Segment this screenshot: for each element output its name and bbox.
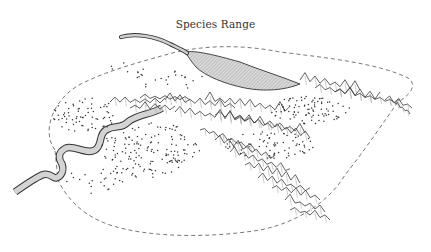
population-dot xyxy=(166,149,168,151)
population-dot xyxy=(267,142,269,144)
population-dot xyxy=(114,178,116,180)
population-dot xyxy=(292,97,294,99)
population-dot xyxy=(78,108,80,110)
population-dot xyxy=(324,113,326,115)
population-dot xyxy=(241,149,243,151)
population-dot xyxy=(117,153,119,155)
population-dot xyxy=(137,72,139,74)
population-dot xyxy=(288,155,290,157)
population-dot xyxy=(138,155,140,157)
population-dot xyxy=(329,101,331,103)
population-dot xyxy=(294,134,296,136)
population-dot xyxy=(178,167,180,169)
mountain-shading xyxy=(296,190,298,198)
population-dot xyxy=(157,126,159,128)
population-dot xyxy=(184,149,186,151)
population-dot xyxy=(116,172,118,174)
population-dot xyxy=(135,157,137,159)
population-dot xyxy=(326,115,328,117)
population-dot xyxy=(308,138,310,140)
population-dot xyxy=(151,169,153,171)
population-dot xyxy=(74,130,76,132)
population-dot xyxy=(312,99,314,101)
population-dot xyxy=(142,69,144,71)
population-dot xyxy=(150,169,152,171)
population-dot xyxy=(157,150,159,152)
population-dot xyxy=(132,167,134,169)
mountain-shading xyxy=(286,175,288,183)
population-dot xyxy=(184,153,186,155)
population-dot xyxy=(227,148,229,150)
population-dot xyxy=(192,156,194,158)
population-dot xyxy=(167,154,169,156)
population-dot xyxy=(127,71,129,73)
mountain-shading xyxy=(315,213,317,220)
population-dot xyxy=(72,119,74,121)
mountain-shading xyxy=(306,192,308,200)
population-dot xyxy=(288,147,290,149)
population-dot xyxy=(104,104,106,106)
population-dot xyxy=(111,137,113,139)
population-dot xyxy=(304,152,306,154)
population-dot xyxy=(345,112,347,114)
population-dot xyxy=(85,115,87,117)
population-dot xyxy=(54,109,56,111)
population-dot xyxy=(135,163,137,165)
mountain-shading xyxy=(250,102,252,111)
population-dot xyxy=(270,156,272,158)
population-dot xyxy=(267,134,269,136)
population-dot xyxy=(312,114,314,116)
population-dot xyxy=(328,114,330,116)
population-dot xyxy=(128,158,130,160)
population-dot xyxy=(183,149,185,151)
population-dot xyxy=(91,180,93,182)
population-dot xyxy=(106,126,108,128)
mountain-shading xyxy=(272,178,274,186)
population-dot xyxy=(298,135,300,137)
population-dot xyxy=(269,155,271,157)
mountain-shading xyxy=(220,138,222,146)
mountain-shading xyxy=(277,125,279,133)
population-dot xyxy=(174,71,176,73)
population-dot xyxy=(284,99,286,101)
population-dot xyxy=(108,103,110,105)
population-dot xyxy=(146,150,148,152)
population-dot xyxy=(192,80,194,82)
population-dot xyxy=(151,136,153,138)
population-dot xyxy=(165,173,167,175)
population-dot xyxy=(150,163,152,165)
population-dot xyxy=(64,116,66,118)
population-dot xyxy=(289,98,291,100)
population-dot xyxy=(180,138,182,140)
mountain-shading xyxy=(165,106,167,114)
population-dot xyxy=(79,100,81,102)
population-dot xyxy=(289,105,291,107)
population-dot xyxy=(135,176,137,178)
mountain-shading xyxy=(315,78,317,87)
mountain-shading xyxy=(320,207,322,215)
population-dot xyxy=(76,121,78,123)
population-dot xyxy=(296,143,298,145)
population-dot xyxy=(283,133,285,135)
population-dot xyxy=(229,141,231,143)
population-dot xyxy=(174,150,176,152)
population-dot xyxy=(128,136,130,138)
population-dot xyxy=(87,108,89,110)
population-dot xyxy=(277,142,279,144)
population-dot xyxy=(168,76,170,78)
population-dot xyxy=(64,112,66,114)
population-dot xyxy=(171,136,173,138)
population-dot xyxy=(305,115,307,117)
mountain-shading xyxy=(180,108,182,117)
population-dot xyxy=(185,76,187,78)
population-dot xyxy=(115,168,117,170)
population-dot xyxy=(184,136,186,138)
population-dot xyxy=(107,140,109,142)
population-dot xyxy=(90,193,92,195)
population-dot xyxy=(264,140,266,142)
population-dot xyxy=(293,114,295,116)
population-dot xyxy=(119,180,121,182)
population-dot xyxy=(288,152,290,154)
population-dot xyxy=(124,144,126,146)
population-dot xyxy=(122,181,124,183)
